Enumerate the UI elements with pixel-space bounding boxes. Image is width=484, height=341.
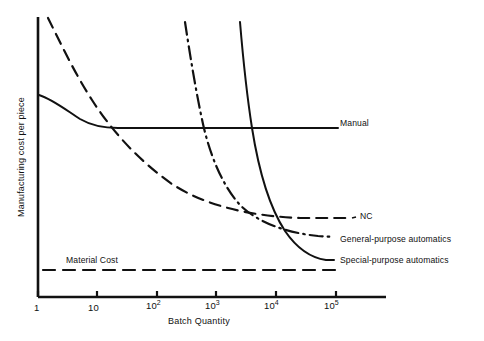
x-tick-100-base: 10: [146, 300, 157, 311]
series-label-nc: NC: [360, 211, 373, 221]
series-label-general-purpose-automatics: General-purpose automatics: [340, 234, 451, 244]
series-curve-special-purpose: [240, 22, 334, 260]
series-curve-general-purpose: [185, 22, 334, 237]
x-tick-label-100000: 105: [324, 300, 339, 311]
x-tick-label-10000: 104: [264, 300, 279, 311]
series-curve-manual: [39, 95, 338, 128]
y-axis-title: Manufacturing cost per piece: [16, 62, 26, 252]
series-label-material-cost: Material Cost: [66, 255, 118, 265]
chart-figure: Manufacturing cost per piece Batch Quant…: [0, 0, 484, 341]
x-tick-10000-base: 10: [264, 300, 275, 311]
x-tick-1000-base: 10: [205, 300, 216, 311]
x-tick-label-100: 102: [146, 300, 161, 311]
series-curve-nc: [48, 18, 352, 218]
leader-line-nc: [352, 217, 356, 218]
x-tick-100000-base: 10: [324, 300, 335, 311]
series-label-manual: Manual: [340, 118, 369, 128]
x-tick-label-10: 10: [88, 302, 99, 313]
series-label-special-purpose-automatics: Special-purpose automatics: [340, 255, 449, 265]
x-tick-10000-exponent: 4: [275, 299, 279, 306]
x-tick-1000-exponent: 3: [216, 299, 220, 306]
x-tick-100000-exponent: 5: [335, 299, 339, 306]
x-tick-100-exponent: 2: [157, 299, 161, 306]
chart-canvas: [0, 0, 484, 341]
x-tick-label-1000: 103: [205, 300, 220, 311]
x-axis-title: Batch Quantity: [168, 316, 230, 326]
x-tick-label-1: 1: [34, 302, 39, 313]
